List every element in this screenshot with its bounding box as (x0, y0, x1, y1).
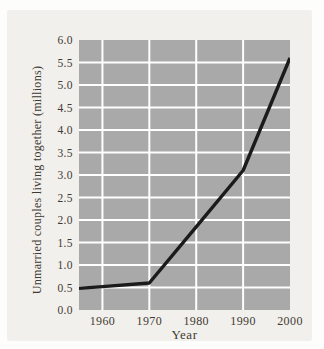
y-tick-label: 2.0 (43, 213, 73, 227)
y-tick-label: 6.0 (43, 33, 73, 47)
y-tick-label: 3.5 (43, 146, 73, 160)
y-tick-label: 3.0 (43, 168, 73, 182)
y-tick-label: 5.0 (43, 78, 73, 92)
y-tick-label: 0.0 (43, 303, 73, 317)
y-tick-label: 1.5 (43, 236, 73, 250)
figure-canvas: Unmarried couples living together (milli… (0, 0, 324, 349)
chart-panel: Unmarried couples living together (milli… (7, 10, 312, 341)
y-tick-label: 4.5 (43, 101, 73, 115)
y-tick-label: 5.5 (43, 56, 73, 70)
y-tick-label: 1.0 (43, 258, 73, 272)
line-chart-svg (79, 40, 290, 310)
plot-area (79, 40, 290, 310)
y-tick-label: 0.5 (43, 281, 73, 295)
x-tick-label: 2000 (268, 314, 312, 328)
x-tick-label: 1980 (174, 314, 218, 328)
x-tick-label: 1990 (221, 314, 265, 328)
x-tick-label: 1970 (127, 314, 171, 328)
y-tick-label: 4.0 (43, 123, 73, 137)
data-line (79, 58, 290, 288)
x-tick-label: 1960 (80, 314, 124, 328)
x-axis-title: Year (79, 327, 290, 343)
y-tick-label: 2.5 (43, 191, 73, 205)
